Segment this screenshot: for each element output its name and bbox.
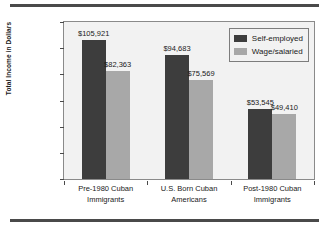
y-tick-mark (60, 127, 64, 128)
legend-label: Self-employed (252, 34, 303, 43)
x-axis-category-label: U.S. Born CubanAmericans (144, 184, 234, 205)
plot-area: $0$20,000$40,000$60,000$80,000$100,000$1… (63, 21, 315, 180)
y-tick-mark (60, 48, 64, 49)
bar[interactable] (189, 80, 213, 179)
y-tick-mark (60, 101, 64, 102)
x-axis-category-line: U.S. Born Cuban (144, 184, 234, 195)
y-tick-mark (60, 153, 64, 154)
y-tick-mark (60, 22, 64, 23)
legend-swatch-icon (234, 48, 247, 55)
y-tick-mark (60, 74, 64, 75)
x-axis-category-line: Americans (144, 195, 234, 206)
bar[interactable] (248, 109, 272, 179)
y-axis-title: Total Income in Dollars (5, 0, 12, 118)
bar-value-label: $49,410 (254, 103, 314, 112)
legend-swatch-icon (234, 35, 247, 42)
bottom-rule (10, 219, 319, 222)
bar-value-label: $105,921 (64, 29, 124, 38)
legend-label: Wage/salaried (252, 47, 303, 56)
x-axis-category-label: Pre-1980 CubanImmigrants (61, 184, 151, 205)
x-axis-category-label: Post-1980 CubanImmigrants (227, 184, 317, 205)
bar[interactable] (272, 114, 296, 179)
x-axis-category-line: Immigrants (227, 195, 317, 206)
bar[interactable] (106, 71, 130, 179)
chart-figure: Total Income in Dollars $0$20,000$40,000… (0, 0, 329, 229)
bar-value-label: $82,363 (88, 60, 148, 69)
x-axis-category-line: Immigrants (61, 195, 151, 206)
top-rule (10, 4, 319, 7)
legend-item-self-employed[interactable]: Self-employed (234, 32, 303, 45)
x-axis-category-line: Post-1980 Cuban (227, 184, 317, 195)
legend: Self-employed Wage/salaried (229, 28, 309, 62)
legend-item-wage-salaried[interactable]: Wage/salaried (234, 45, 303, 58)
bar-value-label: $94,683 (147, 44, 207, 53)
x-axis-category-line: Pre-1980 Cuban (61, 184, 151, 195)
bar-value-label: $75,569 (171, 69, 231, 78)
y-tick-mark (60, 179, 64, 180)
plot-inner: $0$20,000$40,000$60,000$80,000$100,000$1… (64, 22, 314, 179)
